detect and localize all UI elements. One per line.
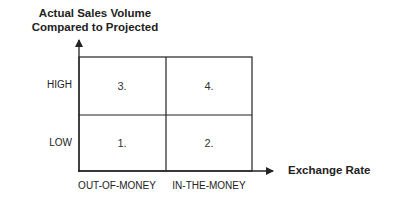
x-axis-title: Exchange Rate	[288, 164, 370, 176]
quadrant-1: 1.	[112, 137, 132, 149]
column-label-out-of-money: OUT-OF-MONEY	[73, 180, 161, 191]
row-label-high: HIGH	[32, 79, 72, 90]
column-label-in-the-money: IN-THE-MONEY	[165, 180, 253, 191]
y-axis-title: Actual Sales Volume Compared to Projecte…	[20, 6, 170, 34]
quadrant-3: 3.	[112, 80, 132, 92]
y-axis-title-line1: Actual Sales Volume	[20, 6, 170, 20]
y-axis-title-line2: Compared to Projected	[20, 20, 170, 34]
row-label-low: LOW	[32, 137, 72, 148]
quadrant-2: 2.	[199, 137, 219, 149]
quadrant-4: 4.	[199, 80, 219, 92]
